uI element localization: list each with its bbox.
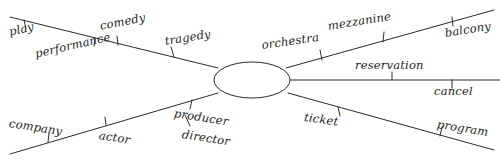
- tick-actor: [105, 117, 106, 125]
- diagram-svg: [0, 0, 500, 162]
- diagram-canvas: play performance comedy tragedy orchestr…: [0, 0, 500, 162]
- tick-tragedy: [171, 47, 174, 57]
- center-node-ellipse[interactable]: [214, 62, 290, 98]
- label-cancel: cancel: [434, 86, 473, 98]
- label-reservation: reservation: [355, 60, 424, 72]
